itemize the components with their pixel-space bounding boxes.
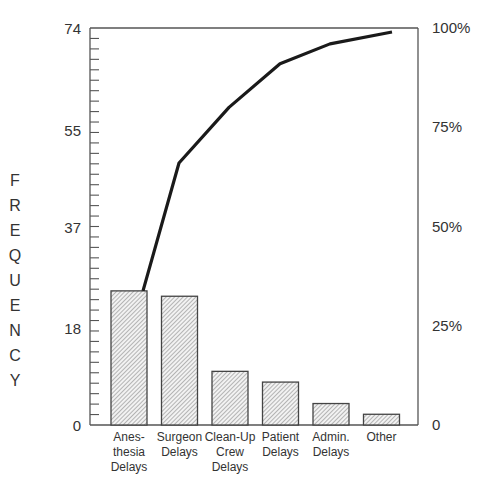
y-axis-title-letter: C (9, 347, 21, 364)
left-axis-tick-label: 18 (64, 320, 81, 337)
y-axis-title-letter: U (9, 272, 21, 289)
right-axis-tick-label: 100% (432, 19, 470, 36)
right-axis-labels: 025%50%75%100% (432, 19, 470, 433)
y-axis-title-letter: N (9, 322, 21, 339)
category-label: Clean-Up (205, 430, 256, 444)
bar (162, 296, 198, 425)
bar (212, 371, 248, 425)
category-label: thesia (113, 445, 145, 459)
y-axis-title: FREQUENCY (9, 172, 21, 389)
y-axis-title-letter: F (10, 172, 20, 189)
category-label: Delays (111, 460, 148, 474)
category-labels: Anes-thesiaDelaysSurgeonDelaysClean-UpCr… (111, 430, 397, 474)
bar (313, 404, 349, 425)
category-label: Patient (262, 430, 300, 444)
bar (263, 382, 299, 425)
right-axis-tick-label: 50% (432, 218, 462, 235)
category-label: Crew (216, 445, 244, 459)
left-axis: 018375574 (64, 20, 99, 434)
category-label: Delays (212, 460, 249, 474)
right-axis-tick-label: 0 (432, 416, 440, 433)
bar (364, 414, 400, 425)
right-axis-tick-label: 75% (432, 118, 462, 135)
left-axis-tick-label: 0 (73, 417, 81, 434)
y-axis-title-letter: Y (10, 372, 21, 389)
category-label: Other (366, 430, 396, 444)
category-label: Delays (313, 445, 350, 459)
category-label: Admin. (312, 430, 349, 444)
left-axis-tick-label: 55 (64, 122, 81, 139)
category-label: Anes- (113, 430, 144, 444)
left-axis-tick-label: 37 (64, 219, 81, 236)
y-axis-title-letter: E (10, 222, 21, 239)
category-label: Delays (262, 445, 299, 459)
right-axis-tick-label: 25% (432, 317, 462, 334)
bar (111, 291, 147, 425)
y-axis-title-letter: R (9, 197, 21, 214)
category-label: Delays (161, 445, 198, 459)
category-label: Surgeon (157, 430, 202, 444)
y-axis-title-letter: Q (9, 247, 21, 264)
pareto-chart: FREQUENCY 018375574 025%50%75%100% Anes-… (0, 0, 490, 491)
y-axis-title-letter: E (10, 297, 21, 314)
left-axis-tick-label: 74 (64, 20, 81, 37)
bar-series (111, 291, 400, 425)
cumulative-percentage-line (143, 32, 392, 291)
